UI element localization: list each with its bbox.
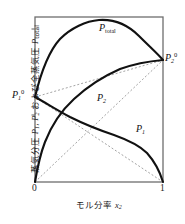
x-tick-label-0: 0 [32, 183, 37, 193]
x-axis-label-text: モル分率 [76, 200, 112, 210]
p2-pure-label-sub: 2 [171, 58, 174, 64]
p1-pure-label-sup: 0 [21, 88, 24, 95]
vapour-pressure-diagram: 蒸気分圧 P1, P2 および全蒸気圧 Ptotal モル分率 x2 0 1 P… [0, 0, 185, 224]
x-tick-label-1: 1 [160, 183, 165, 193]
y-axis-var-p1-sub: 1 [34, 126, 40, 129]
raoult-p2-line [35, 60, 163, 182]
p1-label-sub: 1 [142, 129, 145, 135]
p2-pure-label: P20 [165, 51, 177, 64]
y-axis-var-p2-sub: 2 [34, 112, 40, 115]
y-axis-label-text-2: および全蒸気圧 [30, 44, 40, 112]
p2-label: P2 [97, 92, 106, 104]
p1-label: P1 [136, 123, 145, 135]
p2-pure-label-sup: 0 [174, 51, 177, 58]
y-axis-sep: , [30, 121, 40, 126]
p1-pure-label-sub: 1 [18, 95, 21, 101]
y-axis-label-text-1: 蒸気分圧 [30, 134, 40, 173]
raoult-dashed-lines [35, 60, 163, 182]
raoult-p1-line [35, 97, 163, 182]
y-axis-var-p1: P [30, 129, 40, 134]
p-total-label: Ptotal [99, 22, 116, 34]
y-axis-var-p2: P [30, 115, 40, 120]
x-axis-label: モル分率 x2 [35, 198, 163, 210]
y-axis-label: 蒸気分圧 P1, P2 および全蒸気圧 Ptotal [28, 13, 40, 185]
p1-pure-label: P10 [12, 88, 24, 101]
y-axis-var-ptotal: P [30, 39, 40, 44]
p2-label-sub: 2 [103, 98, 106, 104]
x-axis-var-sub: 2 [119, 204, 122, 210]
y-axis-var-ptotal-sub: total [33, 25, 40, 39]
p-total-label-sub: total [105, 28, 116, 34]
